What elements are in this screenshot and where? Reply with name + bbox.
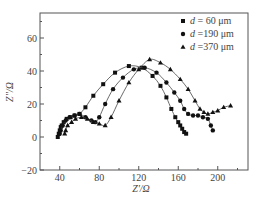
legend-item: d =370 μm: [181, 41, 235, 52]
y-tick-label: −20: [21, 165, 37, 176]
x-tick-label: 120: [131, 172, 146, 183]
y-tick-label: 40: [27, 66, 37, 77]
x-axis-label: Z'/Ω: [132, 183, 150, 194]
legend-label: d =190 μm: [190, 28, 234, 39]
legend-item: d = 60 μm: [181, 15, 232, 26]
legend: d = 60 μmd =190 μmd =370 μm: [181, 15, 235, 52]
y-axis-label: Z''/Ω: [4, 82, 15, 102]
legend-item: d =190 μm: [181, 28, 234, 39]
x-tick-label: 80: [94, 172, 104, 183]
series-square: [56, 64, 188, 139]
x-tick-label: 40: [55, 172, 65, 183]
nyquist-chart: 4080120160200 6040200−20 d = 60 μmd =190…: [0, 0, 260, 205]
y-tick-label: 0: [32, 132, 37, 143]
y-axis-ticks: 6040200−20: [21, 22, 44, 176]
series-circle: [58, 66, 215, 136]
legend-label: d = 60 μm: [190, 15, 232, 26]
x-tick-label: 200: [210, 172, 225, 183]
y-tick-label: 60: [27, 33, 37, 44]
x-axis-ticks: 4080120160200: [55, 166, 238, 183]
y-tick-label: 20: [27, 99, 37, 110]
data-series: [56, 57, 233, 139]
x-tick-label: 160: [171, 172, 186, 183]
legend-label: d =370 μm: [190, 41, 234, 52]
